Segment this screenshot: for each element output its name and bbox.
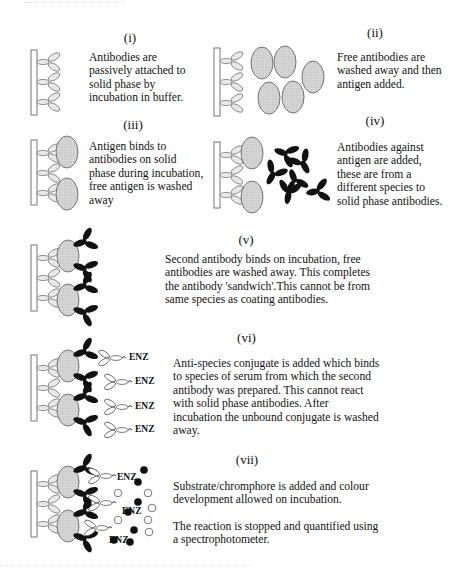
cut-off-caption	[0, 565, 250, 572]
enzyme-label: ENZ	[117, 472, 137, 482]
step-i-text: Antibodies arepassively attached tosolid…	[89, 51, 199, 105]
step-iii-illustration	[30, 140, 90, 210]
enzyme-label: ENZ	[109, 535, 129, 545]
step-label-iii: (iii)	[113, 117, 153, 133]
step-ii-text: Free antibodies arewashed away and thena…	[337, 51, 467, 91]
step-label-ii: (ii)	[355, 25, 395, 41]
step-ii-illustration	[213, 48, 323, 118]
enzyme-label: ENZ	[135, 376, 155, 386]
enzyme-label: ENZ	[135, 424, 155, 434]
enzyme-label: ENZ	[135, 401, 155, 411]
step-iii-text: Antigen binds toantibodies on solidphase…	[89, 140, 219, 207]
step-vi-text: Anti-species conjugate is added which bi…	[173, 357, 413, 437]
top-fragment	[24, 0, 124, 3]
step-iv-text: Antibodies againstantigen are added,thes…	[337, 141, 474, 208]
step-label-vii: (vii)	[222, 452, 272, 468]
step-label-vi: (vi)	[224, 330, 269, 346]
step-label-iv: (iv)	[355, 113, 395, 129]
step-vii-text: Substrate/chromphore is added and colour…	[173, 480, 413, 547]
step-label-i: (i)	[110, 30, 150, 46]
step-label-v: (v)	[226, 232, 266, 248]
step-i-illustration	[30, 50, 70, 120]
enzyme-label: ENZ	[129, 352, 149, 362]
step-v-illustration	[30, 245, 100, 315]
step-iv-illustration	[213, 142, 333, 212]
enzyme-label: ENZ	[122, 506, 142, 516]
step-v-text: Second antibody binds on incubation, fre…	[165, 253, 395, 307]
